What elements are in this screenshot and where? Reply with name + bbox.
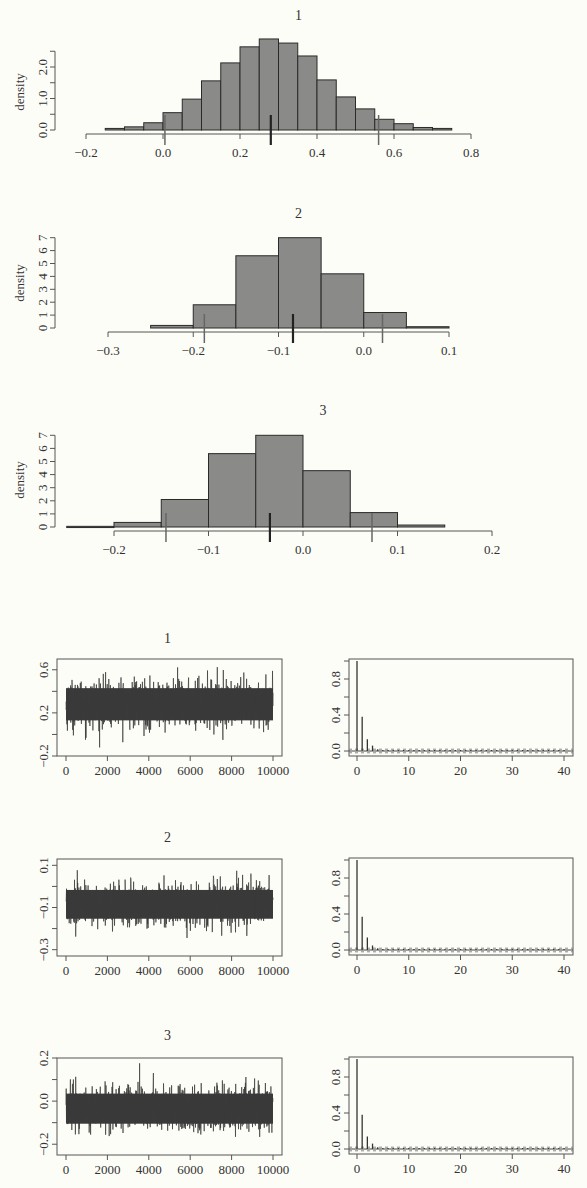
y-tick-label: 0.4 bbox=[328, 706, 343, 723]
y-tick-label: 4 bbox=[35, 273, 50, 280]
y-tick-label: 3 bbox=[35, 286, 50, 293]
x-tick-label: 8000 bbox=[219, 963, 245, 978]
x-tick-label: 10 bbox=[402, 763, 415, 778]
histogram-bar bbox=[161, 499, 208, 527]
x-tick-label: −0.2 bbox=[102, 542, 126, 557]
x-tick-label: 10000 bbox=[257, 763, 290, 778]
trace-title: 1 bbox=[164, 631, 171, 646]
y-tick-label: 2 bbox=[35, 299, 50, 306]
x-tick-label: −0.1 bbox=[197, 542, 221, 557]
x-tick-label: 0 bbox=[63, 763, 70, 778]
y-tick-label: −0.1 bbox=[36, 896, 51, 920]
histogram-bar bbox=[193, 305, 236, 328]
histogram-bar bbox=[321, 274, 364, 328]
histogram-bar bbox=[406, 327, 449, 328]
y-tick-label: 0.8 bbox=[328, 1069, 343, 1085]
y-tick-label: 2.0 bbox=[35, 59, 50, 75]
histogram-bar bbox=[317, 80, 336, 130]
x-tick-label: 10 bbox=[402, 962, 415, 977]
histogram-panel-3: 3density01234567−0.2−0.10.00.10.2 bbox=[12, 403, 500, 557]
y-axis-label: density bbox=[12, 461, 27, 499]
x-tick-label: 8000 bbox=[219, 1162, 245, 1177]
y-tick-label: 0.6 bbox=[36, 661, 51, 678]
histogram-bars bbox=[105, 39, 452, 130]
trace-plot-3: 3−0.20.00.20200040006000800010000 bbox=[36, 1028, 289, 1177]
y-tick-label: 3 bbox=[35, 484, 50, 491]
histogram-bar bbox=[163, 113, 182, 130]
histogram-panel-1: 1density0.01.02.0−0.20.00.20.40.60.8 bbox=[12, 8, 479, 160]
x-tick-label: 30 bbox=[506, 763, 519, 778]
histogram-panel-2: 2density01234567−0.3−0.2−0.10.00.1 bbox=[12, 206, 457, 358]
y-tick-label: 0.8 bbox=[328, 870, 343, 886]
y-tick-label: 0 bbox=[35, 524, 50, 531]
y-tick-label: 0.8 bbox=[328, 671, 343, 687]
histogram-bar bbox=[125, 127, 144, 130]
histogram-bar bbox=[350, 513, 397, 527]
x-tick-label: 0 bbox=[354, 1161, 361, 1176]
y-tick-label: −0.3 bbox=[36, 938, 51, 962]
y-tick-label: 0.2 bbox=[36, 705, 51, 721]
y-tick-label: 0.1 bbox=[36, 857, 51, 873]
histogram-bar bbox=[240, 47, 259, 130]
x-tick-label: 2000 bbox=[94, 963, 120, 978]
y-tick-label: −0.2 bbox=[36, 1132, 51, 1156]
histogram-bar bbox=[413, 127, 432, 130]
x-tick-label: 2000 bbox=[94, 763, 120, 778]
acf-plot-3: 0.00.40.8010203040 bbox=[328, 1057, 573, 1176]
plot-frame bbox=[349, 858, 573, 955]
histogram-bar bbox=[182, 99, 201, 130]
y-axis-label: density bbox=[12, 264, 27, 302]
x-tick-label: 0 bbox=[63, 963, 70, 978]
x-tick-label: −0.1 bbox=[267, 343, 291, 358]
y-tick-label: 1 bbox=[35, 511, 50, 518]
y-tick-label: 7 bbox=[35, 432, 50, 439]
x-tick-label: 0.4 bbox=[309, 145, 326, 160]
y-tick-label: 0.0 bbox=[35, 122, 50, 138]
histogram-bar bbox=[303, 471, 350, 527]
y-tick-label: 0.2 bbox=[36, 1050, 51, 1066]
histogram-bar bbox=[279, 238, 322, 328]
x-tick-label: 6000 bbox=[177, 763, 203, 778]
x-tick-label: 40 bbox=[558, 763, 571, 778]
x-tick-label: 20 bbox=[454, 962, 467, 977]
y-tick-label: 0.0 bbox=[328, 1141, 343, 1157]
histogram-bar bbox=[256, 435, 303, 527]
plot-frame bbox=[349, 659, 573, 756]
x-tick-label: 0 bbox=[63, 1162, 70, 1177]
y-tick-label: 6 bbox=[35, 445, 50, 452]
trace-line bbox=[66, 870, 273, 938]
histogram-bar bbox=[259, 39, 278, 130]
x-tick-label: 8000 bbox=[219, 763, 245, 778]
y-axis-label: density bbox=[12, 73, 27, 111]
plot-frame bbox=[349, 1057, 573, 1154]
y-tick-label: 5 bbox=[35, 260, 50, 267]
y-tick-label: 2 bbox=[35, 498, 50, 505]
x-tick-label: 4000 bbox=[136, 963, 162, 978]
histogram-bars bbox=[67, 435, 445, 527]
y-tick-label: 0.4 bbox=[328, 905, 343, 922]
histogram-bar bbox=[364, 313, 407, 328]
trace-plot-1: 1−0.20.20.60200040006000800010000 bbox=[36, 631, 289, 778]
x-tick-label: 0.0 bbox=[155, 145, 171, 160]
x-tick-label: 4000 bbox=[136, 763, 162, 778]
histogram-bar bbox=[298, 56, 317, 130]
histogram-bar bbox=[67, 526, 114, 527]
x-tick-label: 40 bbox=[558, 962, 571, 977]
histogram-bar bbox=[114, 522, 161, 527]
x-tick-label: 2000 bbox=[94, 1162, 120, 1177]
x-tick-label: 6000 bbox=[177, 963, 203, 978]
y-tick-label: 7 bbox=[35, 234, 50, 241]
histogram-bar bbox=[336, 97, 355, 130]
x-tick-label: 0 bbox=[354, 962, 361, 977]
x-tick-label: 0.6 bbox=[386, 145, 403, 160]
histogram-bar bbox=[151, 325, 194, 328]
trace-line bbox=[66, 1063, 273, 1137]
trace-plot-2: 2−0.3−0.10.10200040006000800010000 bbox=[36, 830, 289, 978]
x-tick-label: 30 bbox=[506, 962, 519, 977]
y-tick-label: −0.2 bbox=[36, 744, 51, 768]
y-tick-label: 0.0 bbox=[328, 942, 343, 958]
x-tick-label: 0.0 bbox=[295, 542, 311, 557]
x-tick-label: 0.1 bbox=[389, 542, 405, 557]
histogram-bar bbox=[398, 525, 445, 527]
x-tick-label: 6000 bbox=[177, 1162, 203, 1177]
